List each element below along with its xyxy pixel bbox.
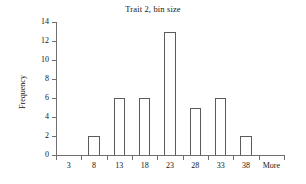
y-tick (52, 22, 57, 23)
histogram-bar (114, 98, 126, 155)
x-tick-label: 18 (141, 162, 149, 170)
y-tick-label: 8 (45, 75, 49, 83)
x-tick-label: 8 (92, 162, 96, 170)
x-tick-label: More (263, 162, 280, 170)
y-tick-label: 10 (41, 56, 49, 64)
histogram-bar (88, 136, 100, 155)
x-tick (259, 155, 260, 160)
x-tick-label: 33 (217, 162, 225, 170)
x-tick (233, 155, 234, 160)
x-tick (157, 155, 158, 160)
y-tick (52, 79, 57, 80)
x-tick (183, 155, 184, 160)
y-tick-label: 12 (41, 37, 49, 45)
y-tick (52, 60, 57, 61)
x-tick (208, 155, 209, 160)
y-tick (52, 136, 57, 137)
y-tick-label: 4 (45, 113, 49, 121)
x-tick (107, 155, 108, 160)
y-tick (52, 117, 57, 118)
histogram-chart: Trait 2, bin size Frequency 02468101214 … (0, 0, 306, 184)
chart-title: Trait 2, bin size (0, 4, 306, 14)
x-tick (132, 155, 133, 160)
y-tick (52, 41, 57, 42)
y-axis-label: Frequency (18, 75, 27, 109)
x-tick-label: 28 (191, 162, 199, 170)
y-tick-label: 0 (45, 151, 49, 159)
histogram-bar (215, 98, 227, 155)
histogram-bar (190, 108, 202, 156)
x-tick-label: 38 (242, 162, 250, 170)
y-tick (52, 98, 57, 99)
x-tick (56, 155, 57, 160)
histogram-bar (240, 136, 252, 155)
histogram-bar (139, 98, 151, 155)
x-tick (284, 155, 285, 160)
x-axis-line (56, 155, 285, 156)
y-tick-label: 14 (41, 18, 49, 26)
histogram-bar (164, 32, 176, 156)
x-tick-label: 3 (67, 162, 71, 170)
plot-area: 02468101214 38131823283338More (56, 22, 284, 155)
x-tick-label: 13 (115, 162, 123, 170)
y-tick-label: 6 (45, 94, 49, 102)
y-tick-label: 2 (45, 132, 49, 140)
x-tick-label: 23 (166, 162, 174, 170)
x-tick (81, 155, 82, 160)
